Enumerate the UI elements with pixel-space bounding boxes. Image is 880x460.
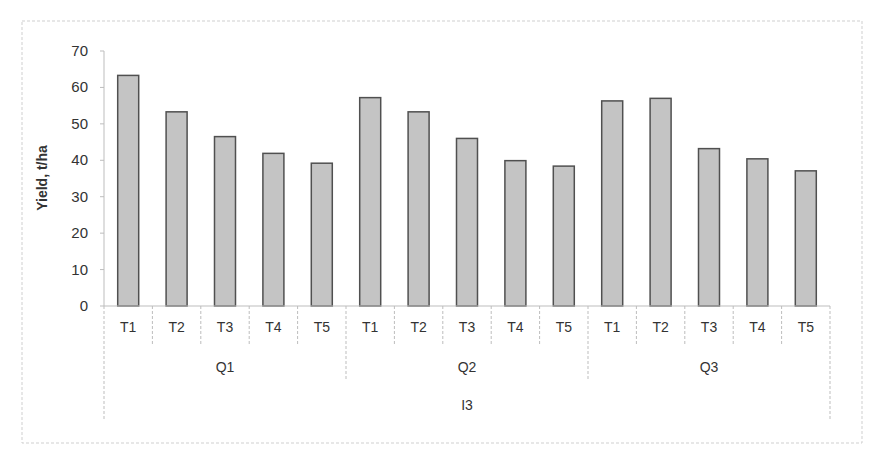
x-tick-label: T4 bbox=[265, 319, 282, 335]
x-group-label: Q1 bbox=[216, 359, 235, 375]
chart-border bbox=[22, 21, 862, 443]
y-tick-label: 30 bbox=[71, 188, 88, 205]
bar bbox=[650, 98, 671, 306]
x-tick-label: T3 bbox=[217, 319, 234, 335]
bar bbox=[747, 159, 768, 306]
y-tick-label: 50 bbox=[71, 115, 88, 132]
bar bbox=[553, 166, 574, 306]
bar bbox=[215, 137, 236, 306]
x-tick-label: T1 bbox=[604, 319, 621, 335]
bar bbox=[408, 112, 429, 306]
x-tick-label: T4 bbox=[749, 319, 766, 335]
bar bbox=[166, 112, 187, 306]
bar bbox=[360, 98, 381, 306]
bar bbox=[602, 101, 623, 306]
y-tick-label: 60 bbox=[71, 78, 88, 95]
x-tick-label: T2 bbox=[168, 319, 185, 335]
bar bbox=[699, 149, 720, 306]
bar bbox=[311, 163, 332, 306]
bar-chart: 010203040506070 T1T2T3T4T5T1T2T3T4T5T1T2… bbox=[0, 0, 880, 460]
y-tick-label: 70 bbox=[71, 42, 88, 59]
bar bbox=[118, 75, 139, 306]
y-tick-label: 40 bbox=[71, 151, 88, 168]
x-outer-group-label: I3 bbox=[461, 397, 473, 413]
x-tick-label: T5 bbox=[798, 319, 815, 335]
y-tick-label: 20 bbox=[71, 224, 88, 241]
bar bbox=[505, 161, 526, 306]
bar bbox=[457, 138, 478, 306]
x-tick-label: T5 bbox=[556, 319, 573, 335]
x-tick-label: T2 bbox=[652, 319, 669, 335]
x-tick-label: T1 bbox=[362, 319, 379, 335]
y-tick-label: 10 bbox=[71, 261, 88, 278]
x-tick-label: T5 bbox=[314, 319, 331, 335]
x-tick-label: T4 bbox=[507, 319, 524, 335]
x-tick-label: T3 bbox=[701, 319, 718, 335]
x-group-label: Q3 bbox=[700, 359, 719, 375]
x-tick-label: T1 bbox=[120, 319, 137, 335]
x-tick-label: T3 bbox=[459, 319, 476, 335]
y-tick-label: 0 bbox=[80, 297, 88, 314]
x-group-label: Q2 bbox=[458, 359, 477, 375]
bar bbox=[263, 153, 284, 306]
bar bbox=[795, 171, 816, 306]
y-axis-label: Yield, t/ha bbox=[34, 145, 50, 211]
x-tick-label: T2 bbox=[410, 319, 427, 335]
